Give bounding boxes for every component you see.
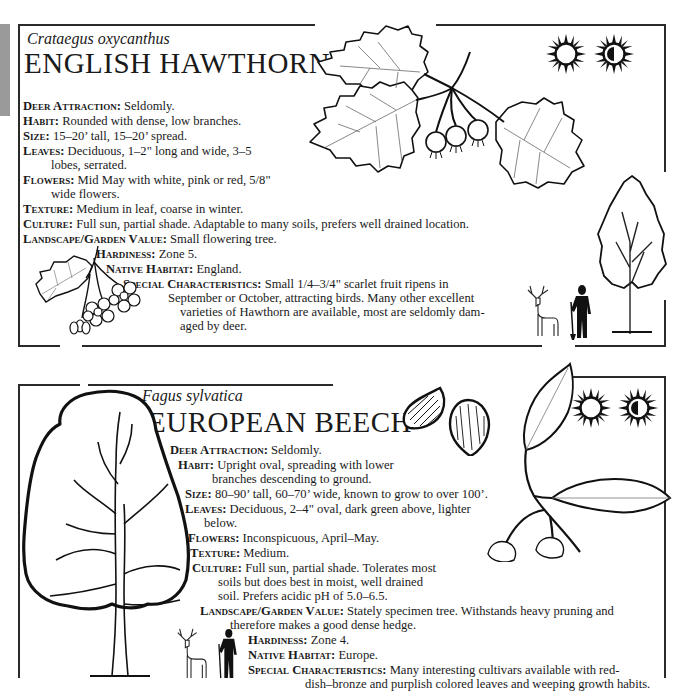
fact-value: Rounded with dense, low branches. [62, 114, 241, 128]
scientific-name: Crataegus oxycanthus [27, 30, 170, 48]
card-border-bottom [82, 345, 542, 347]
fact-value: Deciduous, 2–4" oval, dark green above, … [230, 502, 471, 516]
fact-value: Upright oval, spreading with lower [217, 458, 394, 472]
fact-value-continued: lobes, serrated. [51, 158, 127, 172]
fact-label: Leaves: [23, 144, 64, 158]
fact-value: Small 1/4–3/4" scarlet fruit ripens in [265, 277, 449, 291]
beech-branch-illustration [470, 362, 680, 562]
page-edge-tab [0, 24, 10, 116]
fact-value: Inconspicuous, April–May. [243, 531, 380, 545]
card-border-right [664, 24, 666, 172]
fact-value-continued: wide flowers. [51, 187, 120, 201]
fact-value: 15–20’ tall, 15–20’ spread. [53, 129, 187, 143]
fact-label: Flowers: [23, 173, 74, 187]
deer-scale-illustration [524, 284, 560, 338]
hawthorn-tree-illustration [596, 172, 668, 338]
fact-value: Medium. [243, 546, 289, 560]
fact-label: Landscape/Garden Value: [200, 604, 344, 618]
fact-value-continued: branches descending to ground. [212, 472, 371, 486]
fact-label: Special Characteristics: [248, 663, 386, 677]
fact-label: Hardiness: [248, 633, 308, 647]
fact-label: Texture: [190, 546, 240, 560]
card-border-bottom [575, 345, 666, 347]
fact-value-continued: below. [204, 516, 237, 530]
fact-value: Zone 4. [311, 633, 349, 647]
fact-label: Texture: [23, 202, 73, 216]
fact-value: Seldomly. [124, 99, 175, 113]
fact-value: Medium in leaf, coarse in winter. [76, 202, 243, 216]
hawthorn-branch-illustration [300, 22, 590, 194]
partial-shade-icon [593, 33, 635, 75]
card-border-bottom [18, 345, 60, 347]
fact-value-continued: dish–bronze and purplish colored leaves … [305, 677, 650, 691]
fact-value: Seldomly. [271, 443, 322, 457]
fact-label: Deer Attraction: [23, 99, 121, 113]
card-border-left [18, 24, 20, 346]
fact-value-continued: aged by deer. [180, 319, 247, 333]
fact-label: Native Habitat: [248, 648, 335, 662]
card-border-top [18, 24, 315, 26]
fact-value-continued: September or October, attracting birds. … [168, 291, 474, 305]
fact-value: Europe. [338, 648, 378, 662]
fact-value: Many interesting cultivars available wit… [390, 663, 620, 677]
fact-value-continued: soils but does best in moist, well drain… [218, 575, 423, 589]
fact-label: Size: [23, 129, 50, 143]
fact-value: 80–90’ tall, 60–70’ wide, known to grow … [215, 487, 488, 501]
fact-value-continued: therefore makes a good dense hedge. [230, 618, 416, 632]
gardener-silhouette-illustration [567, 284, 593, 340]
fact-label: Culture: [192, 561, 242, 575]
fact-label: Leaves: [185, 502, 226, 516]
fact-label: Flowers: [188, 531, 239, 545]
fact-value-continued: soil. Prefers acidic pH of 5.0–6.5. [218, 589, 388, 603]
deer-scale-illustration [174, 627, 208, 678]
fact-value: Full sun, partial shade. Tolerates most [245, 561, 436, 575]
fact-value: England. [196, 262, 241, 276]
common-name: ENGLISH HAWTHORN [24, 47, 330, 80]
fact-value: Small flowering tree. [170, 232, 277, 246]
fact-value-continued: varieties of Hawthorn are available, mos… [180, 305, 485, 319]
fact-value: Mid May with white, pink or red, 5/8" [78, 173, 271, 187]
hawthorn-flower-illustration [28, 244, 148, 336]
fact-label: Habit: [23, 114, 59, 128]
beech-tree-illustration [20, 384, 190, 678]
fact-value: Zone 5. [159, 247, 197, 261]
gardener-silhouette-illustration [214, 628, 240, 678]
fact-value: Full sun, partial shade. Adaptable to ma… [76, 217, 469, 231]
fact-value: Deciduous, 1–2" long and wide, 3–5 [68, 144, 252, 158]
fact-value: Stately specimen tree. Withstands heavy … [347, 604, 614, 618]
fact-label: Culture: [23, 217, 73, 231]
